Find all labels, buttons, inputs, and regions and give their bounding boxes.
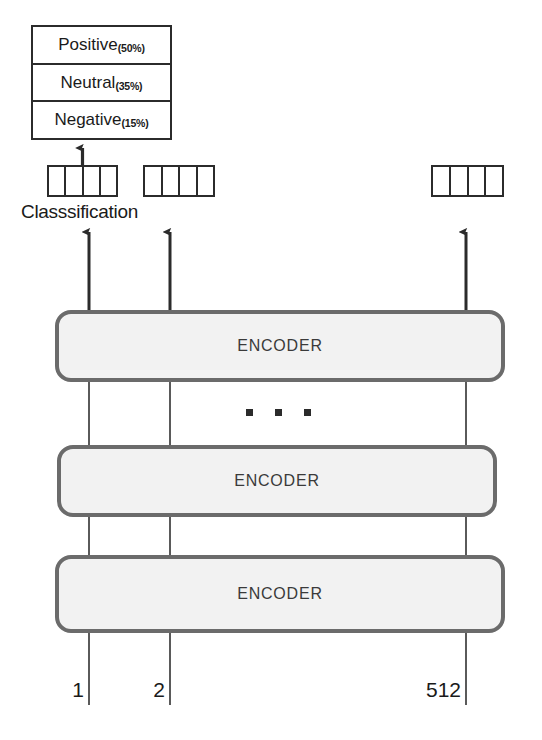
token-cell <box>101 167 116 195</box>
ellipsis-dot <box>304 409 311 416</box>
token-cell <box>198 167 214 195</box>
token-box-1 <box>47 165 118 197</box>
token-cell <box>180 167 198 195</box>
token-cell <box>451 167 469 195</box>
token-cell <box>145 167 163 195</box>
encoder-label-top: ENCODER <box>237 337 323 355</box>
token-cell <box>49 167 66 195</box>
encoder-block-middle: ENCODER <box>57 445 497 517</box>
token-cell <box>469 167 487 195</box>
ellipsis-dot <box>246 409 253 416</box>
token-cell <box>163 167 181 195</box>
encoder-label-middle: ENCODER <box>234 472 320 490</box>
encoder-block-top: ENCODER <box>55 310 505 382</box>
encoder-block-bottom: ENCODER <box>55 555 505 633</box>
token-cell <box>84 167 101 195</box>
input-index-label-2: 2 <box>153 678 165 702</box>
token-box-2 <box>143 165 215 197</box>
input-index-label-1: 1 <box>72 678 84 702</box>
classification-caption: Classsification <box>21 201 138 223</box>
input-index-label-512: 512 <box>426 678 461 702</box>
ellipsis-dot <box>275 409 282 416</box>
token-cell <box>486 167 502 195</box>
token-cell <box>433 167 451 195</box>
token-cell <box>66 167 83 195</box>
encoder-label-bottom: ENCODER <box>237 585 323 603</box>
diagram-root: Positive(50%) Neutral(35%) Negative(15%) <box>0 0 542 740</box>
token-box-3 <box>431 165 504 197</box>
